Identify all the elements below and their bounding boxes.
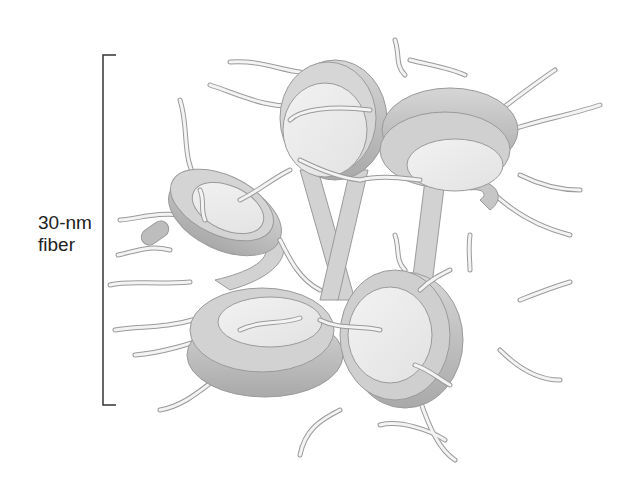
nucleosome-4 [187,288,343,397]
nucleosome-2 [280,60,387,180]
nucleosome-5 [340,270,463,408]
chromatin-fiber-illustration [0,0,637,491]
scale-bracket [103,55,116,405]
nucleosome-3 [380,88,518,191]
